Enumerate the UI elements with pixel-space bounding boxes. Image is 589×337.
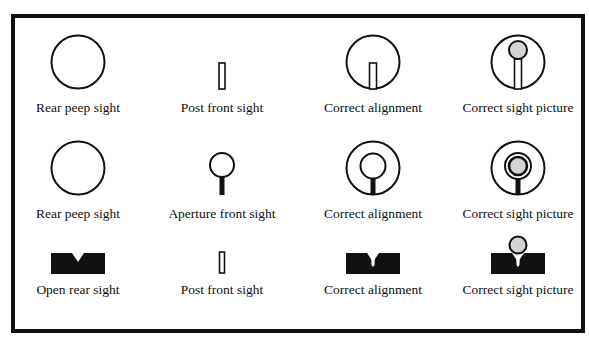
label-rear-peep-sight: Rear peep sight	[8, 100, 148, 116]
peep-ring-icon	[48, 138, 108, 198]
label-aperture-front-sight: Aperture front sight	[152, 206, 292, 222]
cell-rear-peep-sight-2: Rear peep sight	[8, 138, 148, 222]
label-post-front-sight: Post front sight	[152, 100, 292, 116]
notch-post-target-icon	[488, 245, 548, 275]
label-open-rear-sight: Open rear sight	[8, 282, 148, 298]
label-correct-sight-picture: Correct sight picture	[448, 206, 588, 222]
cell-post-front-sight-1: Post front sight	[152, 32, 292, 116]
post-icon	[192, 32, 252, 92]
label-correct-sight-picture: Correct sight picture	[448, 100, 588, 116]
label-correct-sight-picture: Correct sight picture	[448, 282, 588, 298]
cell-correct-alignment-1: Correct alignment	[303, 32, 443, 116]
cell-correct-sight-picture-2: Correct sight picture	[448, 138, 588, 222]
cell-open-rear-sight: Open rear sight	[8, 245, 148, 298]
post-icon	[192, 245, 252, 275]
peep-with-aperture-icon	[343, 138, 403, 198]
aperture-icon	[192, 138, 252, 198]
label-post-front-sight: Post front sight	[152, 282, 292, 298]
peep-ring-icon	[48, 32, 108, 92]
peep-with-post-icon	[343, 32, 403, 92]
label-correct-alignment: Correct alignment	[303, 282, 443, 298]
label-correct-alignment: Correct alignment	[303, 206, 443, 222]
cell-post-front-sight-2: Post front sight	[152, 245, 292, 298]
notch-with-post-icon	[343, 245, 403, 275]
label-correct-alignment: Correct alignment	[303, 100, 443, 116]
cell-rear-peep-sight-1: Rear peep sight	[8, 32, 148, 116]
peep-aperture-target-icon	[488, 138, 548, 198]
cell-correct-alignment-2: Correct alignment	[303, 138, 443, 222]
cell-correct-sight-picture-3: Correct sight picture	[448, 245, 588, 298]
label-rear-peep-sight: Rear peep sight	[8, 206, 148, 222]
v-notch-icon	[48, 245, 108, 275]
cell-correct-alignment-3: Correct alignment	[303, 245, 443, 298]
cell-aperture-front-sight: Aperture front sight	[152, 138, 292, 222]
cell-correct-sight-picture-1: Correct sight picture	[448, 32, 588, 116]
peep-post-target-icon	[488, 32, 548, 92]
